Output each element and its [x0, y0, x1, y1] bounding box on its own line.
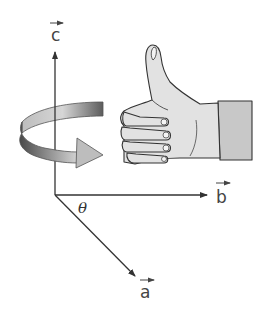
- right-hand-thumbs-up: [121, 45, 252, 164]
- rotation-arrowhead: [76, 138, 103, 168]
- right-hand-rule-diagram: c b a θ: [0, 0, 262, 313]
- fingernail: [162, 157, 167, 162]
- sleeve-cuff: [218, 101, 252, 160]
- rotation-arrow-front: [20, 122, 103, 168]
- rotation-arrow: [22, 102, 103, 133]
- rotation-arrow-back-band: [22, 102, 103, 133]
- label-b: b: [216, 183, 230, 207]
- svg-text:b: b: [216, 187, 227, 207]
- vector-a: [55, 195, 135, 276]
- angle-theta-label: θ: [78, 199, 87, 217]
- fingernail: [161, 119, 167, 125]
- fingernail: [163, 132, 169, 138]
- label-a: a: [140, 280, 154, 302]
- svg-text:a: a: [140, 282, 150, 302]
- label-c: c: [50, 23, 63, 45]
- fingernail: [163, 145, 169, 151]
- svg-text:c: c: [51, 25, 60, 45]
